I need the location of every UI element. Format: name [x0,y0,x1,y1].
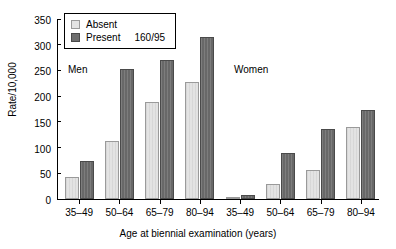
x-tick-mark [280,200,281,204]
legend-swatch-absent-icon [71,20,80,29]
y-tick: 200 [34,87,57,105]
legend: Absent Present 160/95 [64,13,176,49]
x-tick-mark [321,200,322,204]
y-tick-mark [57,70,61,71]
y-tick: 100 [34,139,57,157]
legend-swatch-present-icon [71,33,80,42]
y-tick-mark [57,44,61,45]
y-tick-mark [57,121,61,122]
x-tick-mark [160,200,161,204]
bar-present [321,129,335,199]
y-tick-label: 200 [34,92,57,103]
y-tick-label: 350 [34,15,57,26]
y-tick-label: 100 [34,144,57,155]
bar-present [160,60,174,199]
x-tick-mark [200,200,201,204]
bar-absent [145,102,159,199]
y-tick-label: 300 [34,41,57,52]
legend-label-absent: Absent [86,19,117,30]
bar-chart-figure: Rate/10,000 050100150200250300350 35–495… [0,0,396,249]
y-tick-mark [57,173,61,174]
y-tick-label: 50 [40,169,57,180]
bar-absent [65,177,79,199]
x-axis-title: Age at biennial examination (years) [0,228,396,239]
bar-present [241,195,255,199]
x-tick-mark [79,200,80,204]
bar-absent [185,82,199,199]
y-tick-mark [57,96,61,97]
bar-present [80,161,94,199]
x-axis-line [57,199,379,200]
y-tick: 50 [40,164,57,182]
y-tick-mark [57,19,61,20]
bar-present [120,69,134,199]
panel-label-women: Women [234,64,268,75]
y-tick-mark [57,199,61,200]
legend-item-absent: Absent [71,18,165,31]
x-tick-mark [119,200,120,204]
bar-absent [306,170,320,199]
legend-label-present: Present [86,32,120,43]
y-tick-label: 0 [45,195,57,206]
legend-item-present: Present 160/95 [71,31,165,44]
x-tick-mark [240,200,241,204]
y-tick-label: 150 [34,118,57,129]
y-tick: 150 [34,113,57,131]
bar-present [361,110,375,199]
x-tick-mark [361,200,362,204]
y-axis-label: Rate/10,000 [7,45,18,135]
y-tick: 300 [34,36,57,54]
bar-absent [266,184,280,199]
x-tick-label: 80–94 [331,207,391,218]
bar-present [281,153,295,199]
y-tick-mark [57,147,61,148]
legend-note: 160/95 [134,32,165,43]
y-tick: 350 [34,10,57,28]
bar-absent [105,141,119,199]
panel-label-men: Men [68,64,87,75]
y-tick: 250 [34,61,57,79]
bar-absent [226,197,240,199]
y-tick: 0 [45,190,57,208]
bar-present [200,37,214,200]
y-tick-label: 250 [34,66,57,77]
bar-absent [346,127,360,199]
